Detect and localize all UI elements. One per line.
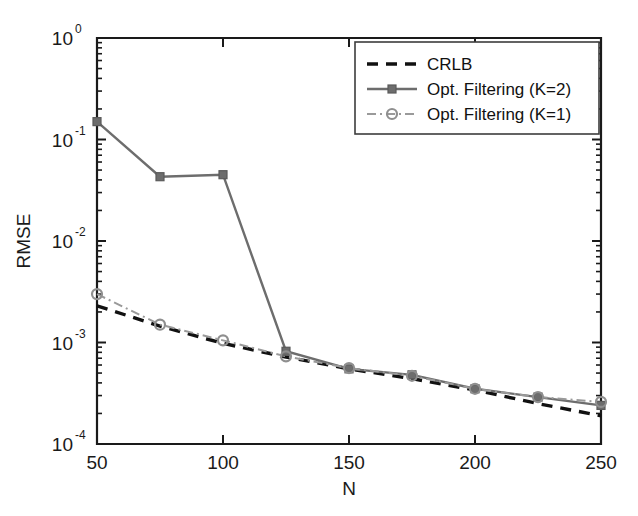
y-tick-label-exponent: -1 bbox=[75, 124, 86, 138]
x-tick-label: 250 bbox=[585, 452, 617, 473]
y-tick-label: 10 bbox=[52, 130, 73, 151]
y-tick-label-exponent: -2 bbox=[75, 225, 86, 239]
x-tick-label: 100 bbox=[207, 452, 239, 473]
y-axis-title: RMSE bbox=[13, 214, 34, 269]
y-tick-label-exponent: 0 bbox=[75, 22, 82, 36]
y-tick-label: 10 bbox=[52, 28, 73, 49]
y-tick-label: 10 bbox=[52, 231, 73, 252]
x-tick-label: 50 bbox=[86, 452, 107, 473]
legend-label: Opt. Filtering (K=2) bbox=[427, 80, 571, 99]
y-tick-label: 10 bbox=[52, 434, 73, 455]
x-tick-label: 150 bbox=[333, 452, 365, 473]
data-point-marker bbox=[93, 118, 101, 126]
y-tick-label: 10 bbox=[52, 333, 73, 354]
legend-label: CRLB bbox=[427, 55, 472, 74]
y-tick-label-exponent: -3 bbox=[75, 327, 86, 341]
x-tick-label: 200 bbox=[459, 452, 491, 473]
y-tick-label-exponent: -4 bbox=[75, 428, 86, 442]
data-point-marker bbox=[156, 173, 164, 181]
chart-legend: CRLBOpt. Filtering (K=2)Opt. Filtering (… bbox=[355, 42, 599, 134]
x-axis-title: N bbox=[342, 478, 356, 499]
figure-container: 10010-110-210-310-4 50100150200250 N RMS… bbox=[0, 0, 638, 516]
legend-label: Opt. Filtering (K=1) bbox=[427, 105, 571, 124]
legend-marker-square bbox=[388, 85, 396, 93]
rmse-vs-n-chart: 10010-110-210-310-4 50100150200250 N RMS… bbox=[0, 0, 638, 516]
data-point-marker bbox=[219, 171, 227, 179]
